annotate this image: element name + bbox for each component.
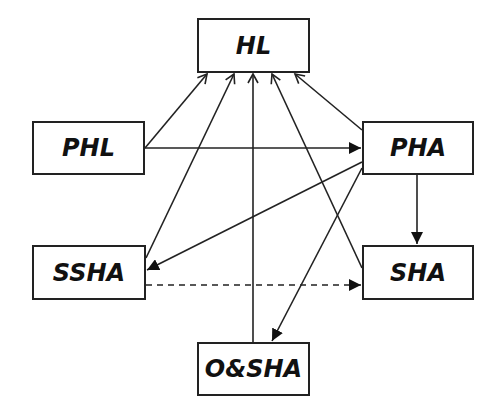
- edge-pha-ssha: [147, 162, 362, 270]
- path-diagram: HL PHL PHA SSHA SHA O&SHA: [0, 0, 501, 415]
- node-pha: PHA: [362, 121, 474, 175]
- edge-ssha-hl: [146, 74, 234, 258]
- node-ssha: SSHA: [32, 245, 146, 300]
- node-label-hl: HL: [236, 32, 271, 60]
- node-label-sha: SHA: [390, 259, 446, 287]
- node-phl: PHL: [32, 121, 145, 175]
- node-label-osha: O&SHA: [205, 355, 302, 383]
- node-hl: HL: [197, 18, 310, 73]
- edge-phl-hl: [145, 74, 207, 148]
- node-label-phl: PHL: [62, 134, 115, 162]
- edge-sha-hl: [272, 74, 362, 268]
- node-label-ssha: SSHA: [53, 259, 125, 287]
- edge-pha-osha: [272, 168, 362, 341]
- node-sha: SHA: [362, 245, 474, 300]
- node-osha: O&SHA: [197, 342, 310, 396]
- edge-pha-hl: [295, 74, 362, 130]
- node-label-pha: PHA: [390, 134, 446, 162]
